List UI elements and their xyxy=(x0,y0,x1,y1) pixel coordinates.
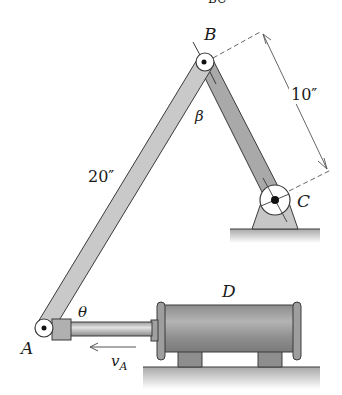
label-length-ab: 20″ xyxy=(88,167,114,186)
label-pin-b: B xyxy=(203,24,217,44)
support-c-ground xyxy=(230,229,320,243)
piston-rod xyxy=(70,322,152,336)
link-ab xyxy=(38,58,212,332)
label-angle-beta: β xyxy=(194,107,204,125)
link-bc xyxy=(199,58,283,204)
label-velocity-a: vA xyxy=(111,352,127,373)
label-pin-c: C xyxy=(297,191,310,211)
label-cylinder-d: D xyxy=(221,281,236,301)
label-length-bc: 10″ xyxy=(291,85,317,104)
cylinder-d-right-flange xyxy=(293,302,301,360)
label-pin-a: A xyxy=(19,338,33,358)
header-fragment: BC xyxy=(208,0,226,6)
rod-clevis xyxy=(52,319,71,340)
cylinder-d-body xyxy=(163,305,296,352)
velocity-arrow xyxy=(90,343,136,351)
velocity-subscript: A xyxy=(118,360,127,373)
pin-a xyxy=(35,319,53,337)
label-angle-theta: θ xyxy=(78,303,87,321)
cylinder-ground xyxy=(143,367,320,389)
